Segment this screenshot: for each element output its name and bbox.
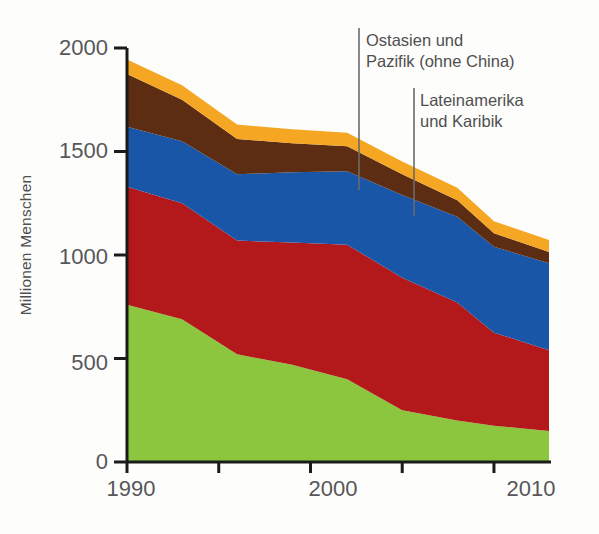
chart-plot-area	[0, 0, 599, 534]
chart-root: Millionen Menschen 2000 1500 1000 500 0 …	[0, 0, 599, 534]
